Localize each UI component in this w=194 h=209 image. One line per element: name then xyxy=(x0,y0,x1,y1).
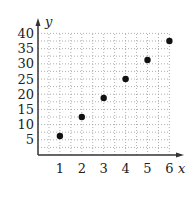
data-point xyxy=(79,114,85,120)
y-tick-label: 5 xyxy=(26,132,34,147)
data-point xyxy=(57,133,63,139)
y-tick-label: 20 xyxy=(17,87,34,102)
y-tick-label: 25 xyxy=(17,72,34,87)
x-tick-label: 6 xyxy=(165,161,173,176)
y-tick-label: 35 xyxy=(17,41,34,56)
y-tick-label: 40 xyxy=(17,26,34,41)
y-tick-label: 30 xyxy=(17,56,34,71)
y-tick-label: 10 xyxy=(17,117,34,132)
data-point xyxy=(122,76,128,82)
x-tick-label: 2 xyxy=(78,161,86,176)
x-axis-arrow-icon xyxy=(176,153,184,158)
y-axis-label: y xyxy=(44,14,53,29)
x-tick-label: 4 xyxy=(121,161,129,176)
y-tick-labels: 510152025303540 xyxy=(17,26,34,147)
x-axis-label: x xyxy=(178,161,186,176)
x-tick-label: 5 xyxy=(143,161,151,176)
x-tick-label: 3 xyxy=(100,161,108,176)
x-tick-label: 1 xyxy=(56,161,64,176)
data-point xyxy=(166,38,172,44)
scatter-chart: 510152025303540 123456 y x xyxy=(0,0,194,209)
y-tick-label: 15 xyxy=(17,102,34,117)
data-point xyxy=(101,95,107,101)
x-tick-labels: 123456 xyxy=(56,161,174,176)
y-axis-arrow-icon xyxy=(36,18,41,26)
data-point xyxy=(144,57,150,63)
